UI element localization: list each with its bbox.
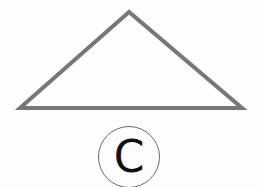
option-letter: C	[114, 135, 145, 179]
diagram-canvas: C	[0, 0, 262, 187]
triangle-shape	[20, 12, 242, 108]
option-label-circle[interactable]: C	[98, 126, 160, 187]
